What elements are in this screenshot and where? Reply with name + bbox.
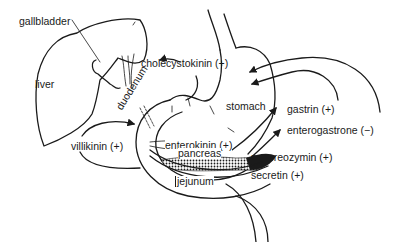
label-villikinin: villikinin (+) [71, 141, 123, 152]
digestive-hormone-diagram: gallbladder liver cholecystokinin (+) du… [0, 0, 393, 242]
label-enterogastrone: enterogastrone (−) [287, 125, 374, 136]
gallbladder-outline [92, 60, 120, 89]
anatomy-drawing [0, 0, 393, 242]
villikinin-return [80, 152, 140, 168]
label-liver: liver [35, 79, 54, 90]
label-stomach: stomach [226, 101, 266, 112]
label-cholecystokinin: cholecystokinin (+) [141, 58, 228, 69]
label-pancreozymin: pancreozymin (+) [251, 152, 332, 163]
esophagus-left [208, 10, 220, 50]
gastrin-source [232, 108, 276, 150]
label-gallbladder: gallbladder [19, 16, 70, 27]
esophagus-right [224, 14, 236, 48]
gastrin-loop [252, 71, 338, 100]
liver-lobe-notch [133, 22, 135, 25]
villikinin-loop [82, 122, 134, 136]
gallbladder-pointer [72, 20, 100, 62]
duodenum-dashes [140, 106, 154, 128]
label-pancreas: pancreas [178, 148, 221, 159]
label-gastrin: gastrin (+) [287, 104, 335, 115]
label-secretin: secretin (+) [251, 170, 304, 181]
label-jejunum: jejunum [175, 176, 214, 187]
duct-markers [172, 98, 234, 132]
